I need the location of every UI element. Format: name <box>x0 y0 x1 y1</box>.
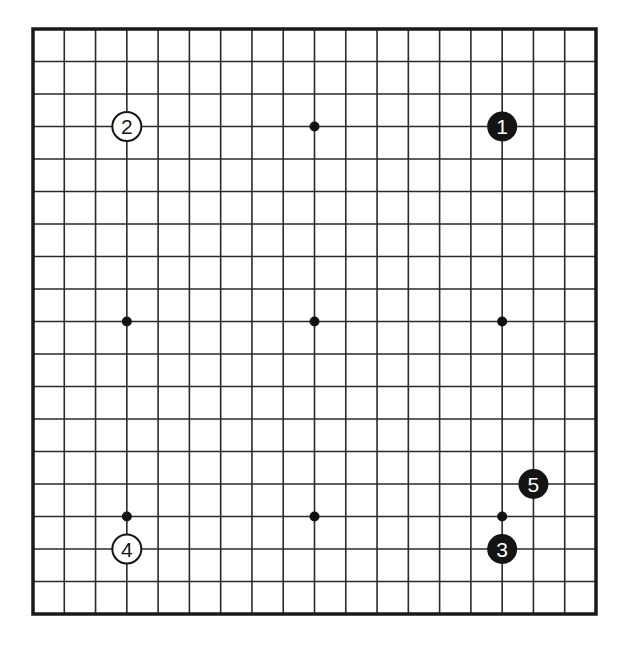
move-number: 3 <box>496 538 508 561</box>
move-number: 4 <box>121 538 133 561</box>
stone-black-3: 3 <box>487 534 517 564</box>
star-point <box>497 512 507 522</box>
move-number: 2 <box>121 115 133 138</box>
star-point <box>497 317 507 327</box>
move-number: 5 <box>528 473 540 496</box>
stone-white-4: 4 <box>112 535 141 564</box>
go-board[interactable]: 12345 <box>0 0 633 647</box>
stone-black-1: 1 <box>487 112 517 142</box>
stone-black-5: 5 <box>518 469 548 499</box>
move-number: 1 <box>496 115 508 138</box>
star-point <box>310 122 320 132</box>
star-point <box>310 317 320 327</box>
stone-white-2: 2 <box>112 112 141 141</box>
star-point <box>122 512 132 522</box>
star-point <box>310 512 320 522</box>
stones-layer: 12345 <box>112 112 548 565</box>
star-point <box>122 317 132 327</box>
